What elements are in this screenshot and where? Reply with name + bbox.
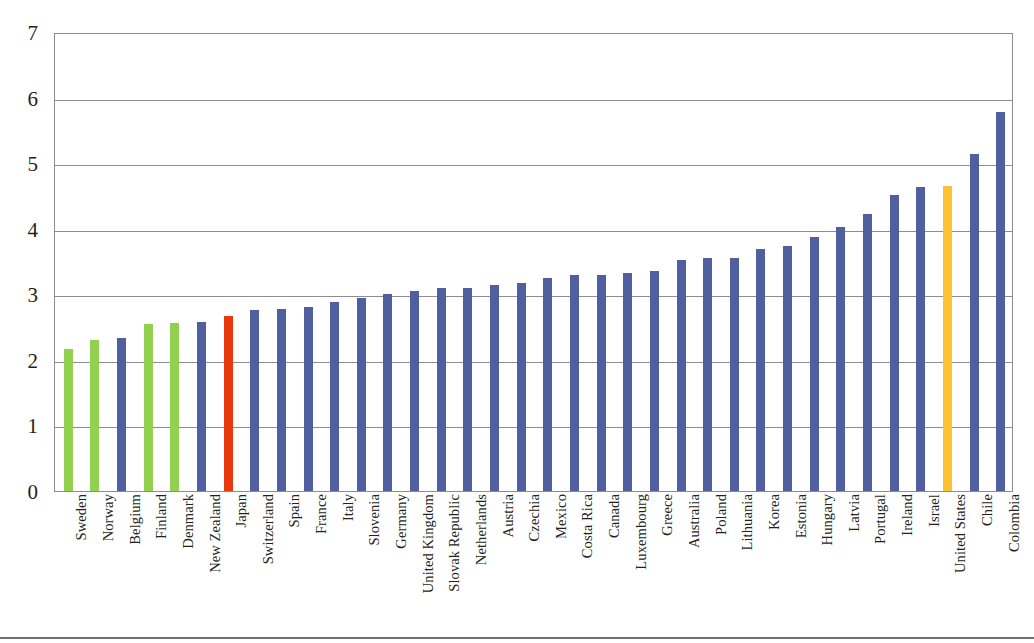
x-tick-label: Finland	[154, 494, 169, 643]
x-tick-label: Poland	[714, 494, 729, 643]
y-tick-label: 0	[0, 482, 38, 503]
x-tick-label: United Kingdom	[421, 494, 436, 643]
bar	[677, 260, 686, 491]
x-tick-label: Canada	[607, 494, 622, 643]
x-tick-label: United States	[953, 494, 968, 643]
x-tick-label: Netherlands	[474, 494, 489, 643]
x-tick-label: Ireland	[900, 494, 915, 643]
bar	[117, 338, 126, 491]
bar	[490, 285, 499, 491]
x-tick-label: Austria	[501, 494, 516, 643]
bar	[730, 258, 739, 491]
bar	[650, 271, 659, 491]
x-tick-label: Colombia	[1007, 494, 1022, 643]
x-tick-label: Spain	[287, 494, 302, 643]
x-tick-label: Israel	[927, 494, 942, 643]
bar	[996, 112, 1005, 491]
x-tick-label: Greece	[660, 494, 675, 643]
bar	[197, 322, 206, 491]
bar	[250, 310, 259, 491]
x-tick-label: Denmark	[181, 494, 196, 643]
bar	[383, 294, 392, 491]
bar	[64, 349, 73, 491]
bar	[703, 258, 712, 491]
bar	[890, 195, 899, 491]
bottom-divider	[0, 637, 1034, 639]
x-tick-label: Japan	[234, 494, 249, 643]
bar	[970, 154, 979, 491]
bar	[410, 291, 419, 491]
plot-area	[54, 33, 1013, 492]
x-tick-label: Italy	[341, 494, 356, 643]
x-tick-label: Luxembourg	[634, 494, 649, 643]
bar	[810, 237, 819, 491]
bar	[144, 324, 153, 491]
x-tick-label: Hungary	[820, 494, 835, 643]
y-tick-label: 4	[0, 220, 38, 241]
x-tick-label: Estonia	[794, 494, 809, 643]
y-tick-label: 2	[0, 351, 38, 372]
bar	[623, 273, 632, 491]
bar	[863, 214, 872, 491]
bar	[437, 288, 446, 491]
x-tick-label: Belgium	[128, 494, 143, 643]
y-tick-label: 1	[0, 416, 38, 437]
x-tick-label: Switzerland	[261, 494, 276, 643]
bar	[543, 278, 552, 491]
bar	[170, 323, 179, 491]
x-tick-label: France	[314, 494, 329, 643]
bar	[570, 275, 579, 491]
bar	[330, 302, 339, 491]
bar	[463, 288, 472, 491]
bar	[277, 309, 286, 491]
bar	[943, 186, 952, 491]
x-tick-label: Portugal	[873, 494, 888, 643]
y-tick-label: 3	[0, 285, 38, 306]
bar	[357, 298, 366, 491]
y-axis: 01234567	[0, 0, 46, 520]
bar	[517, 283, 526, 491]
bar	[783, 246, 792, 491]
bar	[916, 187, 925, 491]
bar	[90, 340, 99, 491]
bar	[756, 249, 765, 491]
x-tick-label: Australia	[687, 494, 702, 643]
x-tick-label: Lithuania	[740, 494, 755, 643]
x-tick-label: Sweden	[74, 494, 89, 643]
x-tick-label: Germany	[394, 494, 409, 643]
x-tick-label: Costa Rica	[580, 494, 595, 643]
x-tick-label: New Zealand	[208, 494, 223, 643]
bar	[304, 307, 313, 491]
x-tick-label: Czechia	[527, 494, 542, 643]
x-tick-label: Latvia	[847, 494, 862, 643]
x-tick-label: Korea	[767, 494, 782, 643]
x-tick-label: Slovenia	[367, 494, 382, 643]
bar	[224, 316, 233, 491]
bar-chart: 01234567 SwedenNorwayBelgiumFinlandDenma…	[0, 0, 1034, 643]
bars-layer	[55, 34, 1012, 491]
y-tick-label: 5	[0, 154, 38, 175]
bar	[836, 227, 845, 491]
x-axis: SwedenNorwayBelgiumFinlandDenmarkNew Zea…	[54, 494, 1013, 639]
x-tick-label: Slovak Republic	[447, 494, 462, 643]
x-tick-label: Norway	[101, 494, 116, 643]
x-tick-label: Chile	[980, 494, 995, 643]
bar	[597, 275, 606, 491]
x-tick-label: Mexico	[554, 494, 569, 643]
y-tick-label: 6	[0, 89, 38, 110]
y-tick-label: 7	[0, 23, 38, 44]
